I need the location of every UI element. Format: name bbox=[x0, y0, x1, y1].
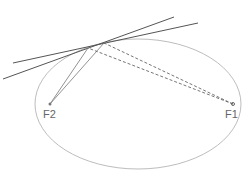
ellipse bbox=[35, 39, 241, 169]
focus-f1-label: F1 bbox=[225, 108, 238, 120]
tangent-line-2 bbox=[3, 17, 174, 79]
focal-ray-f2-point-1 bbox=[50, 48, 88, 104]
focus-f2-label: F2 bbox=[43, 108, 56, 120]
focal-ray-f1-point-1-dashed bbox=[88, 48, 233, 104]
tangent-line-1 bbox=[13, 23, 198, 63]
focus-f2-point bbox=[49, 103, 52, 106]
ellipse-diagram: F2 F1 bbox=[0, 0, 244, 181]
focal-ray-f1-point-2-dashed bbox=[104, 43, 233, 104]
